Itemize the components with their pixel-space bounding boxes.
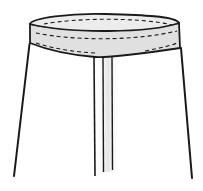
- illustration-canvas: skirt-waistband-line-drawing: [0, 0, 203, 191]
- pleat-shading: [96, 57, 120, 172]
- skirt-illustration: [0, 0, 203, 191]
- waistband: [30, 14, 180, 57]
- skirt-left-side: [14, 44, 30, 176]
- skirt-right-side: [181, 48, 192, 178]
